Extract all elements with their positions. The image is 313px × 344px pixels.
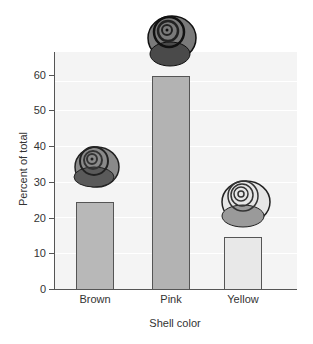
snail-shell-icon-pink [146, 14, 198, 70]
y-tick-label: 10 [20, 247, 46, 259]
y-tick-label: 0 [20, 283, 46, 295]
y-tick [49, 253, 54, 254]
y-tick-label: 50 [20, 104, 46, 116]
snail-shell-icon-brown [72, 143, 122, 193]
x-tick-label-yellow: Yellow [213, 293, 273, 305]
x-axis [54, 289, 297, 290]
y-tick [49, 182, 54, 183]
cut-off-caption [0, 0, 313, 5]
y-tick [49, 110, 54, 111]
snail-shell-icon-yellow [219, 178, 273, 232]
bar-brown [76, 202, 114, 290]
y-tick [49, 146, 54, 147]
y-axis-label: Percent of total [17, 124, 29, 214]
y-tick [49, 75, 54, 76]
bar-yellow [224, 237, 262, 290]
x-axis-label: Shell color [0, 317, 313, 329]
x-tick-label-pink: Pink [141, 293, 201, 305]
x-tick-label-brown: Brown [65, 293, 125, 305]
y-tick-label: 60 [20, 69, 46, 81]
y-tick [49, 289, 54, 290]
bar-pink [152, 76, 190, 290]
y-tick [49, 218, 54, 219]
y-axis [54, 52, 55, 290]
